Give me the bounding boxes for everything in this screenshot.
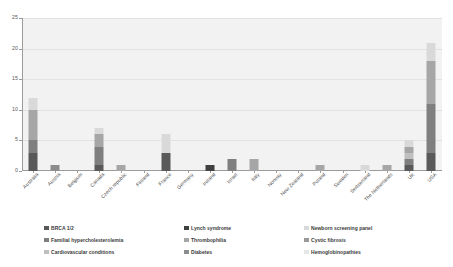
x-axis-tick-label: Australia [22, 172, 40, 190]
bar-slot [398, 18, 420, 171]
bar-slot [287, 18, 309, 171]
bar-stack[interactable] [404, 140, 413, 171]
bar-slot [22, 18, 44, 171]
bar-slot [88, 18, 110, 171]
legend-label: Cardiovascular conditions [51, 249, 114, 255]
x-axis-tick-mark [210, 171, 211, 173]
legend-item[interactable]: Cardiovascular conditions [44, 246, 184, 258]
x-axis-tick-label: USA [427, 172, 438, 183]
legend-swatch-icon [44, 226, 49, 231]
bar-stack[interactable] [426, 43, 435, 172]
bar-slot [110, 18, 132, 171]
legend-swatch-icon [44, 238, 49, 243]
x-axis-tick-label: Italy [250, 172, 261, 183]
y-axis-tick-label: 25 [0, 15, 18, 20]
legend-swatch-icon [184, 238, 189, 243]
x-axis-tick-label: Austria [47, 172, 62, 187]
x-axis-tick-label: Israel [226, 172, 239, 185]
bar-slot [133, 18, 155, 171]
y-axis-tick-label: 15 [0, 76, 18, 81]
bar-segment[interactable] [426, 104, 435, 153]
bar-stack[interactable] [95, 128, 104, 171]
bar-segment[interactable] [426, 153, 435, 171]
x-axis-tick-label: Poland [312, 172, 327, 187]
bar-slot [243, 18, 265, 171]
x-axis-labels: AustraliaAustriaBelgiumCanadaCzech repub… [22, 171, 442, 217]
bar-segment[interactable] [250, 159, 259, 171]
x-axis-tick-label: Ireland [202, 172, 217, 187]
x-axis-tick-mark [77, 171, 78, 173]
legend-item[interactable]: Thrombophilia [184, 234, 304, 246]
x-axis-tick-mark [144, 171, 145, 173]
bar-segment[interactable] [95, 134, 104, 146]
legend-label: Diabetes [191, 249, 212, 255]
legend-item[interactable]: Cystic fibrosis [304, 234, 434, 246]
legend-label: Thrombophilia [191, 237, 226, 243]
bar-slot [420, 18, 442, 171]
x-axis-tick-label: Finland [135, 172, 151, 188]
legend-swatch-icon [304, 250, 309, 255]
bar-slot [155, 18, 177, 171]
bar-slot [376, 18, 398, 171]
legend-item[interactable]: Familial hypercholesterolemia [44, 234, 184, 246]
chart-legend: BRCA 1/2Familial hypercholesterolemiaCar… [44, 222, 434, 258]
legend-label: Newborn screening panel [311, 225, 372, 231]
bar-slot [221, 18, 243, 171]
bar-segment[interactable] [227, 159, 236, 171]
bar-stack[interactable] [250, 159, 259, 171]
bar-segment[interactable] [29, 98, 38, 110]
x-axis-tick-mark [431, 171, 432, 173]
x-axis-tick-mark [320, 171, 321, 173]
y-axis-tick-label: 5 [0, 137, 18, 142]
x-axis-tick-mark [33, 171, 34, 173]
bar-segment[interactable] [426, 61, 435, 104]
legend-item[interactable]: BRCA 1/2 [44, 222, 184, 234]
x-axis-tick-mark [232, 171, 233, 173]
bar-stack[interactable] [29, 98, 38, 171]
legend-label: BRCA 1/2 [51, 225, 74, 231]
legend-swatch-icon [184, 250, 189, 255]
legend-item[interactable]: Hemoglobinopathies [304, 246, 434, 258]
y-axis-tick-label: 20 [0, 46, 18, 51]
bar-slot [66, 18, 88, 171]
x-axis-tick-mark [254, 171, 255, 173]
x-axis-tick-mark [166, 171, 167, 173]
bar-stack[interactable] [227, 159, 236, 171]
legend-swatch-icon [44, 250, 49, 255]
legend-swatch-icon [304, 238, 309, 243]
bar-segment[interactable] [426, 43, 435, 61]
bar-slot [331, 18, 353, 171]
x-axis-tick-mark [387, 171, 388, 173]
x-axis-tick-mark [343, 171, 344, 173]
legend-label: Familial hypercholesterolemia [51, 237, 123, 243]
x-axis-tick-mark [365, 171, 366, 173]
x-axis-tick-label: Sweden [333, 172, 350, 189]
stacked-bar-chart: 0510152025 AustraliaAustriaBelgiumCanada… [0, 0, 453, 267]
x-axis-tick-label: France [157, 172, 172, 187]
y-axis-tick-label: 10 [0, 107, 18, 112]
bar-segment[interactable] [95, 147, 104, 165]
x-axis-tick-mark [55, 171, 56, 173]
bar-stack[interactable] [161, 134, 170, 171]
bar-segment[interactable] [161, 153, 170, 171]
x-axis-tick-label: UK [407, 172, 416, 181]
legend-item[interactable]: Diabetes [184, 246, 304, 258]
bar-segment[interactable] [29, 140, 38, 152]
legend-label: Hemoglobinopathies [311, 249, 361, 255]
bar-segment[interactable] [161, 134, 170, 152]
bar-segment[interactable] [29, 153, 38, 171]
bar-slot [44, 18, 66, 171]
legend-item[interactable]: Lynch syndrome [184, 222, 304, 234]
x-axis-tick-label: Canada [90, 172, 107, 189]
x-axis-tick-mark [298, 171, 299, 173]
x-axis-tick-mark [276, 171, 277, 173]
bar-slot [354, 18, 376, 171]
x-axis-tick-label: New Zealand [280, 172, 305, 197]
legend-item[interactable]: Newborn screening panel [304, 222, 434, 234]
x-axis-tick-label: Germany [176, 172, 195, 191]
x-axis-tick-mark [121, 171, 122, 173]
legend-swatch-icon [304, 226, 309, 231]
x-axis-tick-label: Belgium [67, 172, 84, 189]
bar-segment[interactable] [29, 110, 38, 141]
bar-slot [177, 18, 199, 171]
